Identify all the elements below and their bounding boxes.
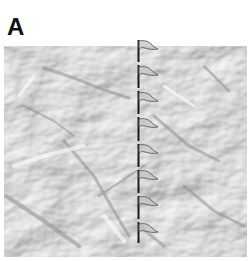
flag-icon xyxy=(139,93,158,102)
flag-icon xyxy=(139,171,158,180)
flag-icon xyxy=(139,41,158,50)
flag-icon xyxy=(139,224,158,233)
flag-icon xyxy=(139,197,158,206)
flag-pole-group xyxy=(0,0,249,261)
flag-icon xyxy=(139,119,158,128)
flag-icon xyxy=(139,67,158,76)
flag-icon xyxy=(139,145,158,154)
